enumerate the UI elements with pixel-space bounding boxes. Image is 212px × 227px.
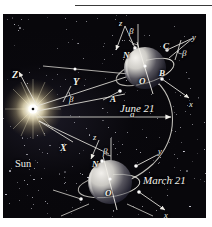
star [86,21,87,22]
star [52,79,53,80]
march-right-ray [127,204,153,216]
star [47,213,48,214]
star [194,178,195,179]
star [26,154,27,155]
star [174,26,175,27]
star [113,210,114,211]
star [179,60,180,61]
star [80,202,81,203]
star [57,74,58,75]
star [83,150,84,151]
star [39,68,40,69]
distance-a-label: a [130,109,135,119]
star [19,188,20,189]
star [124,40,125,41]
star [29,72,30,73]
star [45,201,46,202]
star [204,149,205,150]
star [22,137,23,138]
star [136,149,137,150]
star [66,190,67,191]
star [50,217,51,218]
star [112,35,113,36]
star [27,83,28,84]
star [68,95,69,96]
star [134,49,135,50]
june-axis-x-line [162,79,189,98]
star [37,162,38,163]
star [57,48,58,49]
star [42,152,43,153]
star [22,74,23,75]
star [64,143,65,144]
star [149,172,150,173]
march-left-ray [53,190,81,199]
star [160,46,161,47]
star [80,173,81,174]
star [72,39,73,40]
star [72,207,73,208]
star [47,17,48,18]
star [103,108,104,109]
june-globe-group [103,26,193,100]
star [197,153,198,154]
march-left-ray-2 [61,204,89,216]
star [200,179,201,180]
star [47,203,48,204]
star [34,168,35,169]
star [37,135,38,136]
star [119,74,120,75]
star [111,137,112,138]
star [61,152,62,153]
star [29,169,30,170]
march-axis-y-line [136,154,159,166]
star [105,78,106,79]
ray-node-1 [74,68,77,71]
star [186,72,187,73]
star [167,189,168,190]
star [71,213,72,214]
june-center-dot [143,64,146,67]
star [172,179,173,180]
star [176,114,177,115]
star [180,170,181,171]
star [160,157,161,158]
star [117,154,118,155]
star [169,142,170,143]
star [174,167,175,168]
star [172,130,173,131]
march-axis-x-line [139,192,165,210]
star [132,44,133,45]
axis-y-upper-label: y [192,32,196,42]
star [122,144,123,145]
point-B-label: B [159,68,165,78]
star [157,118,158,119]
star [142,129,143,130]
star [112,216,113,217]
star [14,24,15,25]
star [27,138,28,139]
star [30,137,31,138]
star [64,177,65,178]
star [164,184,165,185]
point-N-lower-label: N [92,159,99,169]
star [77,43,78,44]
sun-center-dot [32,108,35,111]
star [146,137,147,138]
star [64,171,66,173]
star [113,144,114,145]
star [41,178,42,179]
star [68,42,69,43]
star [156,210,157,211]
point-O-upper-label: O [139,76,146,86]
star [140,152,141,153]
star [151,94,152,95]
star [32,197,33,198]
point-N-upper-label: N [123,50,130,60]
star [113,211,114,212]
star [10,126,11,127]
star [125,73,126,74]
star [192,161,193,162]
star [115,148,116,149]
star [72,166,73,167]
